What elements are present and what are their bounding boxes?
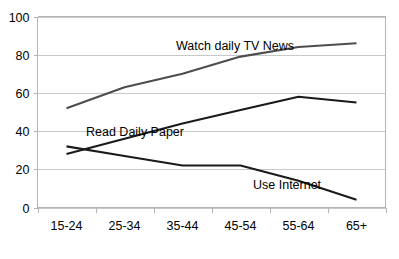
- y-tick-label: 20: [16, 163, 30, 177]
- x-tick-label-55-64: 55-64: [283, 219, 315, 233]
- y-tick-label: 40: [16, 125, 30, 139]
- x-tick-label-65+: 65+: [346, 219, 367, 233]
- line-chart: 020406080100 15-2425-3435-4445-5455-6465…: [0, 0, 399, 259]
- x-tick-label-45-54: 45-54: [225, 219, 257, 233]
- y-tick-marks: [34, 18, 38, 209]
- chart-container: 020406080100 15-2425-3435-4445-5455-6465…: [0, 0, 399, 259]
- annotation-read-daily-paper: Read Daily Paper: [86, 125, 184, 139]
- x-tick-label-25-34: 25-34: [109, 219, 141, 233]
- y-tick-label: 100: [9, 11, 30, 25]
- x-tick-label-15-24: 15-24: [51, 219, 83, 233]
- x-tick-labels: 15-2425-3435-4445-5455-6465+: [51, 219, 368, 233]
- y-tick-label: 0: [23, 202, 30, 216]
- y-tick-label: 60: [16, 87, 30, 101]
- y-tick-labels: 020406080100: [9, 11, 30, 216]
- annotation-use-internet: Use Internet: [253, 178, 322, 192]
- x-tick-label-35-44: 35-44: [167, 219, 199, 233]
- annotation-watch-daily-tv-news: Watch daily TV News: [176, 39, 294, 53]
- y-tick-label: 80: [16, 49, 30, 63]
